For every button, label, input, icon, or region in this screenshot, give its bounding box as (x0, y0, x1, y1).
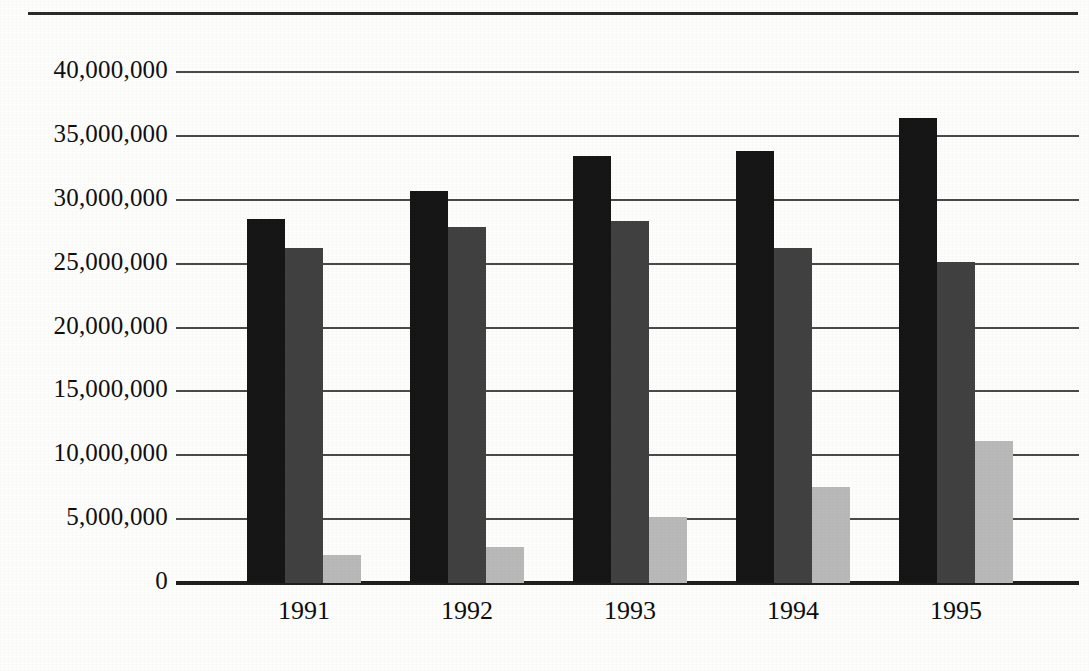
bar-chart: 05,000,00010,000,00015,000,00020,000,000… (0, 0, 1089, 671)
x-tick-label-1993: 1993 (553, 596, 707, 626)
bar-1991-series-3 (323, 555, 361, 583)
y-tick-label: 35,000,000 (0, 121, 168, 146)
y-tick-mark (176, 327, 198, 329)
bar-1994-series-2 (774, 248, 812, 583)
y-tick-mark (176, 390, 198, 392)
y-tick-mark (176, 71, 198, 73)
bar-1993-series-2 (611, 221, 649, 583)
bar-1995-series-1 (899, 118, 937, 583)
bar-1992-series-1 (410, 191, 448, 583)
x-tick-label-1992: 1992 (390, 596, 544, 626)
bar-1995-series-2 (937, 262, 975, 583)
y-axis-labels: 05,000,00010,000,00015,000,00020,000,000… (0, 0, 168, 671)
y-tick-mark (176, 263, 198, 265)
y-tick-mark (176, 199, 198, 201)
bar-1994-series-1 (736, 151, 774, 583)
y-tick-label: 30,000,000 (0, 185, 168, 210)
x-tick-label-1994: 1994 (716, 596, 870, 626)
bar-1992-series-3 (486, 547, 524, 583)
y-tick-mark (176, 518, 198, 520)
y-tick-label: 10,000,000 (0, 440, 168, 465)
bar-1993-series-3 (649, 517, 687, 583)
y-tick-mark (176, 135, 198, 137)
x-tick-label-1995: 1995 (879, 596, 1033, 626)
y-tick-label: 20,000,000 (0, 313, 168, 338)
y-tick-label: 5,000,000 (0, 504, 168, 529)
y-tick-mark (176, 454, 198, 456)
bar-1992-series-2 (448, 227, 486, 583)
y-tick-label: 40,000,000 (0, 57, 168, 82)
page-top-rule (28, 12, 1078, 15)
y-tick-label: 25,000,000 (0, 249, 168, 274)
x-tick-label-1991: 1991 (227, 596, 381, 626)
bars-layer (196, 72, 1079, 583)
bar-1994-series-3 (812, 487, 850, 583)
bar-1991-series-1 (247, 219, 285, 583)
bar-1991-series-2 (285, 248, 323, 583)
bar-1993-series-1 (573, 156, 611, 583)
y-tick-label: 15,000,000 (0, 376, 168, 401)
y-tick-label: 0 (0, 568, 168, 593)
bar-1995-series-3 (975, 441, 1013, 583)
